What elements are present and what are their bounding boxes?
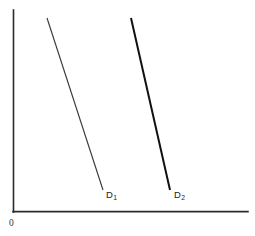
curve-label-d1: D1 — [106, 189, 117, 201]
demand-curve-d1 — [47, 18, 103, 190]
plot-area: 0 D1 D2 — [0, 0, 255, 236]
origin-label: 0 — [9, 218, 14, 228]
curve-label-d1-base: D — [106, 189, 113, 200]
curve-label-d2: D2 — [174, 189, 185, 201]
curve-label-d1-subscript: 1 — [113, 194, 117, 201]
demand-curve-d2 — [131, 18, 170, 190]
curve-label-d2-base: D — [174, 189, 181, 200]
curve-label-d2-subscript: 2 — [181, 194, 185, 201]
demand-curve-figure: 0 D1 D2 — [0, 0, 255, 236]
